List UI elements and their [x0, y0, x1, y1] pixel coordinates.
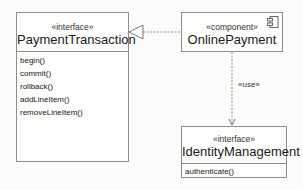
operations-compartment: begin() commit() rollback() addLineItem(…	[17, 51, 128, 165]
operation: commit()	[20, 67, 125, 80]
operation: begin()	[20, 54, 125, 67]
payment-transaction-interface[interactable]: «interface» PaymentTransaction begin() c…	[16, 12, 129, 162]
interface-header: «interface» PaymentTransaction	[17, 13, 128, 51]
operation: addLineItem()	[20, 93, 125, 106]
interface-name: IdentityManagement	[182, 144, 286, 159]
stereotype-label: «interface»	[17, 22, 128, 32]
identity-management-interface[interactable]: «interface» IdentityManagement authentic…	[181, 126, 287, 178]
stereotype-label: «interface»	[182, 134, 286, 144]
operation: authenticate()	[185, 165, 283, 178]
online-payment-component[interactable]: «component» OnlinePayment	[181, 12, 283, 52]
component-icon	[267, 16, 279, 28]
operations-compartment: authenticate()	[182, 163, 286, 178]
interface-name: PaymentTransaction	[17, 32, 128, 47]
component-name: OnlinePayment	[182, 32, 282, 47]
interface-header: «interface» IdentityManagement	[182, 127, 286, 163]
operation: removeLineItem()	[20, 106, 125, 119]
use-label: «use»	[238, 80, 260, 89]
operation: rollback()	[20, 80, 125, 93]
